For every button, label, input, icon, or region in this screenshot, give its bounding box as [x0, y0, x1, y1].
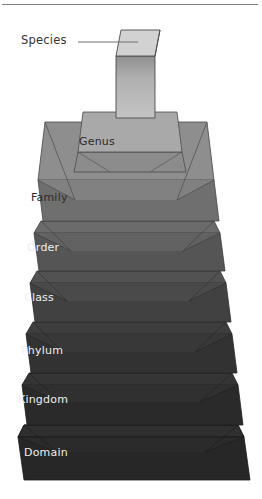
level-class	[30, 271, 231, 322]
level-genus	[74, 112, 186, 172]
level-species	[116, 30, 160, 118]
phylum-top-face	[26, 322, 232, 334]
order-top-face	[34, 221, 220, 233]
genus-front-face	[74, 152, 186, 172]
domain-top-face	[18, 425, 244, 437]
class-top-face	[30, 271, 226, 283]
species-top-face	[116, 30, 160, 56]
species-front-face	[116, 56, 155, 118]
level-order	[34, 221, 225, 271]
kingdom-top-face	[22, 373, 238, 385]
diagram-canvas: Species Genus Family Order Class Phylum …	[0, 0, 262, 499]
level-phylum	[26, 322, 237, 373]
level-domain	[18, 425, 250, 480]
level-kingdom	[22, 373, 243, 425]
taxonomy-pyramid-graphic	[0, 0, 262, 499]
